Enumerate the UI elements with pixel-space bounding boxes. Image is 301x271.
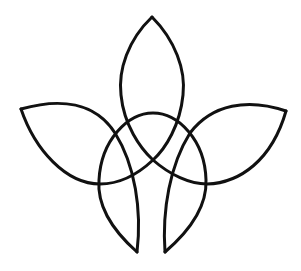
- ornament-canvas: [0, 0, 301, 271]
- knotwork-flower-icon: [0, 0, 301, 271]
